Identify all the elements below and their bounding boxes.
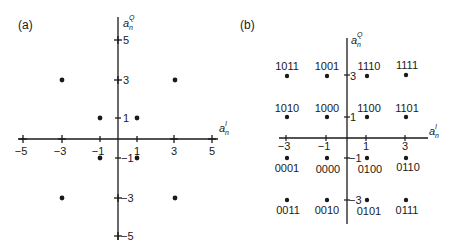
constellation-point (60, 78, 65, 83)
svg-text:n: n (225, 129, 229, 136)
panel-a-i-axis-label: a n I (219, 120, 229, 136)
svg-text:1: 1 (363, 140, 369, 152)
svg-text:1: 1 (134, 145, 140, 157)
svg-text:3: 3 (171, 145, 177, 157)
constellation-point (365, 198, 369, 202)
svg-text:n: n (129, 24, 133, 31)
code-label: 1010 (275, 102, 299, 114)
svg-text:Q: Q (129, 14, 135, 22)
code-label: 0011 (276, 204, 300, 216)
svg-text:1: 1 (350, 111, 356, 123)
svg-text:−1: −1 (121, 152, 134, 164)
code-label: 0100 (358, 163, 382, 175)
panel-a: (a) a n Q a n I −5 −3 −1 1 3 (15, 14, 229, 242)
panel-b-i-axis-label: a n I (429, 123, 439, 139)
constellation-point (365, 156, 369, 160)
constellation-point (404, 198, 408, 202)
code-label: 0000 (316, 163, 340, 175)
constellation-point (173, 78, 178, 83)
code-label: 0010 (315, 204, 339, 216)
svg-text:5: 5 (123, 34, 129, 46)
code-label: 1111 (396, 59, 418, 71)
svg-text:−1: −1 (92, 145, 105, 157)
svg-text:I: I (435, 123, 437, 130)
constellation-point (135, 156, 140, 161)
constellation-point (285, 74, 289, 78)
constellation-point (325, 156, 329, 160)
panel-a-q-axis-label: a n Q (123, 14, 135, 31)
code-label: 1011 (275, 60, 299, 72)
code-label: 0001 (275, 162, 299, 174)
constellation-point (285, 115, 289, 119)
svg-text:−1: −1 (318, 140, 331, 152)
svg-text:3: 3 (123, 74, 129, 86)
svg-text:3: 3 (350, 70, 356, 82)
panel-b-x-tick-labels: −3 −1 1 3 (278, 140, 408, 152)
constellation-point (60, 196, 65, 201)
constellation-point (98, 116, 103, 121)
constellation-point (285, 198, 289, 202)
panel-a-x-tick-labels: −5 −3 −1 1 3 5 (15, 145, 215, 157)
panel-b: (b) a n Q a n I −3 −1 1 3 (240, 18, 439, 224)
svg-text:1: 1 (123, 112, 129, 124)
svg-text:−3: −3 (121, 192, 134, 204)
svg-text:3: 3 (402, 140, 408, 152)
panel-a-label: (a) (18, 18, 33, 32)
constellation-figure: (a) a n Q a n I −5 −3 −1 1 3 (0, 0, 453, 250)
panel-b-q-axis-label: a n Q (351, 31, 363, 48)
constellation-point (404, 73, 408, 77)
constellation-point (365, 115, 369, 119)
svg-text:−3: −3 (54, 145, 67, 157)
constellation-point (173, 196, 178, 201)
code-label: 1100 (357, 102, 381, 114)
svg-text:−5: −5 (121, 230, 134, 242)
code-label: 1001 (315, 60, 339, 72)
constellation-point (325, 198, 329, 202)
svg-text:n: n (435, 132, 439, 139)
panel-a-y-tick-labels: 5 3 1 −1 −3 −5 (121, 34, 134, 242)
svg-text:n: n (357, 41, 361, 48)
constellation-point (404, 156, 408, 160)
code-label: 1110 (358, 60, 381, 72)
panel-b-label: (b) (240, 18, 255, 32)
code-label: 1000 (315, 102, 339, 114)
constellation-point (365, 74, 369, 78)
constellation-point (285, 156, 289, 160)
constellation-point (325, 115, 329, 119)
svg-text:−3: −3 (278, 140, 291, 152)
code-label: 0101 (357, 205, 381, 217)
svg-text:Q: Q (357, 31, 363, 39)
svg-text:−5: −5 (15, 145, 28, 157)
constellation-point (325, 74, 329, 78)
constellation-point (98, 156, 103, 161)
svg-text:I: I (225, 120, 227, 127)
code-label: 0111 (396, 204, 419, 216)
code-label: 0110 (396, 161, 420, 173)
code-label: 1101 (395, 102, 419, 114)
constellation-point (404, 115, 408, 119)
svg-text:5: 5 (209, 145, 215, 157)
constellation-point (135, 116, 140, 121)
